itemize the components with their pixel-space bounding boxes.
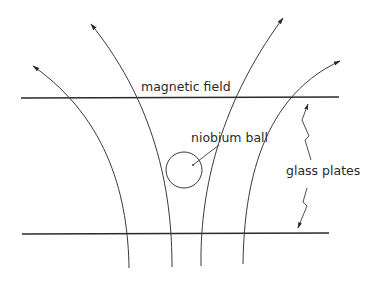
bottom-glass-plate [22,233,329,234]
niobium-ball [166,152,202,188]
glass-plates-pointer-top [302,104,311,160]
niobium-ball-label: niobium ball [191,130,268,145]
magnetic-field-label: magnetic field [141,79,231,94]
leader-dot [192,164,194,166]
field-line-1 [33,66,129,268]
glass-plates-label: glass plates [286,163,360,178]
meissner-effect-diagram: magnetic field niobium ball glass plates [0,0,378,285]
glass-plates-pointer-bottom [298,188,307,228]
field-line-2 [91,24,172,267]
